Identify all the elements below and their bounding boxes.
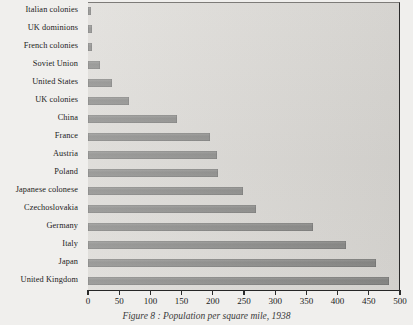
category-label: Soviet Union (0, 59, 78, 69)
axis-tick-label: 50 (115, 296, 124, 306)
bar (88, 241, 346, 249)
category-label: Japan (0, 257, 78, 267)
axis-tick-label: 400 (331, 296, 345, 306)
bar (88, 169, 218, 177)
bar (88, 205, 256, 213)
category-label: French colonies (0, 41, 78, 51)
figure-population-per-square-mile: Italian coloniesUK dominionsFrench colon… (0, 0, 413, 325)
axis-tick (87, 290, 88, 295)
category-label: United States (0, 77, 78, 87)
axis-tick (212, 290, 213, 295)
category-label: Czechoslovakia (0, 203, 78, 213)
axis-tick (119, 290, 120, 295)
axis-tick (181, 290, 182, 295)
bar (88, 43, 92, 51)
category-label: Austria (0, 149, 78, 159)
bar (88, 79, 112, 87)
bar (88, 61, 100, 69)
bar (88, 277, 389, 285)
axis-tick-label: 200 (206, 296, 220, 306)
category-label: Poland (0, 167, 78, 177)
axis-tick (368, 290, 369, 295)
bar (88, 133, 210, 141)
axis-tick-label: 150 (175, 296, 189, 306)
category-label: UK dominions (0, 23, 78, 33)
axis-tick-label: 350 (300, 296, 314, 306)
category-label: Japanese colonese (0, 185, 78, 195)
axis-tick (275, 290, 276, 295)
category-label: France (0, 131, 78, 141)
axis-tick-label: 250 (237, 296, 251, 306)
bar (88, 97, 129, 105)
axis-tick (337, 290, 338, 295)
figure-caption: Figure 8 : Population per square mile, 1… (0, 311, 413, 321)
category-label: Italy (0, 239, 78, 249)
category-label: United Kingdom (0, 275, 78, 285)
bar (88, 25, 92, 33)
category-label: Italian colonies (0, 5, 78, 15)
plot-area (88, 2, 400, 290)
axis-tick-label: 300 (268, 296, 282, 306)
category-label: UK colonies (0, 95, 78, 105)
axis-tick-label: 500 (393, 296, 407, 306)
axis-tick-label: 100 (144, 296, 158, 306)
category-label: Germany (0, 221, 78, 231)
axis-tick-label: 0 (86, 296, 91, 306)
axis-tick-label: 450 (362, 296, 376, 306)
axis-tick (306, 290, 307, 295)
bar (88, 259, 376, 267)
bar (88, 151, 217, 159)
axis-tick (150, 290, 151, 295)
value-axis: 050100150200250300350400450500 (88, 290, 400, 291)
bar (88, 7, 91, 15)
bar (88, 187, 243, 195)
figure-caption-text: Figure 8 : Population per square mile, 1… (122, 311, 290, 321)
bar (88, 223, 313, 231)
category-axis-labels: Italian coloniesUK dominionsFrench colon… (0, 2, 84, 290)
axis-tick (243, 290, 244, 295)
bar (88, 115, 177, 123)
category-label: China (0, 113, 78, 123)
axis-tick (399, 290, 400, 295)
